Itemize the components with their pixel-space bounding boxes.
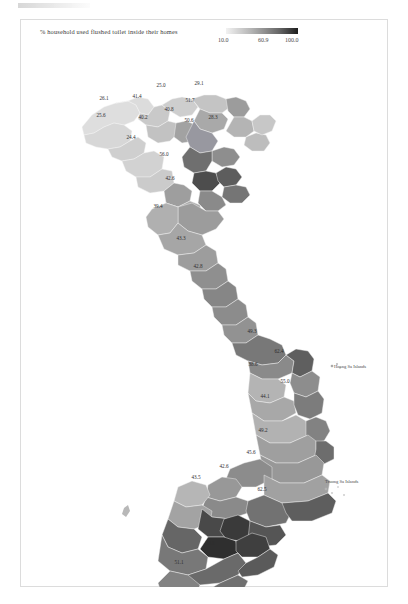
map-svg: Hoang Sa Islands Truong Sa Islands 26.14… <box>20 19 388 587</box>
region-value-label: 62.4 <box>274 348 283 354</box>
region-value-label: 51.1 <box>174 559 183 565</box>
region-value-label: 39.4 <box>153 203 162 209</box>
region-value-label: 42.6 <box>165 175 174 181</box>
region-value-label: 49.3 <box>247 328 256 334</box>
region-value-label: 25.0 <box>156 82 165 88</box>
region-value-label: 40.8 <box>164 106 173 112</box>
region-value-label: 42.8 <box>193 263 202 269</box>
region-value-label: 25.6 <box>96 112 105 118</box>
figure-page: % household used flushed toilet inside t… <box>0 0 408 604</box>
truong-sa-label: Truong Sa Islands <box>325 479 358 484</box>
region-group-north-central <box>146 203 258 343</box>
region-value-label: 26.1 <box>99 95 108 101</box>
region-value-label: 43.5 <box>191 474 200 480</box>
scan-artefact <box>18 3 90 8</box>
region-value-label: 49.2 <box>258 427 267 433</box>
region-value-label: 40.2 <box>138 114 147 120</box>
hoang-sa-label: Hoang Sa Islands <box>334 364 366 369</box>
region-value-label: 62.5 <box>257 486 266 492</box>
region-value-label: 38.6 <box>248 361 257 367</box>
region-value-label: 45.6 <box>246 449 255 455</box>
region-value-label: 28.3 <box>208 114 217 120</box>
region-group-northeast <box>162 95 276 223</box>
region-value-label: 29.1 <box>194 80 203 86</box>
region-value-label: 51.7 <box>185 97 194 103</box>
region-value-label: 41.4 <box>132 93 141 99</box>
region-value-label: 44.1 <box>260 393 269 399</box>
region-value-label: 55.0 <box>280 378 289 384</box>
region-group-south-central <box>232 335 334 483</box>
region-value-label: 56.0 <box>159 151 168 157</box>
region-value-label: 43.3 <box>176 235 185 241</box>
region-value-label: 24.4 <box>126 134 135 140</box>
region-value-label: 54.1 <box>205 540 214 546</box>
region-value-label: 42.6 <box>219 463 228 469</box>
region-value-label: 50.6 <box>184 117 193 123</box>
choropleth-map: Hoang Sa Islands Truong Sa Islands 26.14… <box>20 19 388 587</box>
